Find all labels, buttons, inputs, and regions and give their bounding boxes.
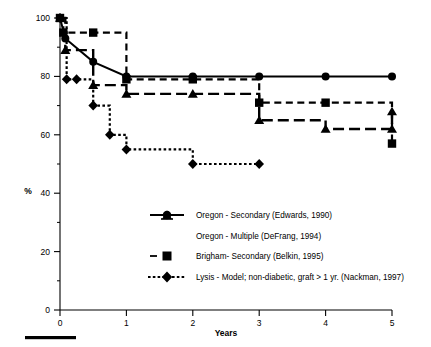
legend-label: Lysis - Model; non-diabetic, graft > 1 y… <box>196 273 404 282</box>
survival-curve-chart: 100 80 60 40 20 0 % 0 1 2 3 4 5 Years <box>0 0 431 347</box>
x-tick-label: 2 <box>190 318 195 328</box>
x-axis-title: Years <box>215 328 238 338</box>
chart-figure: 100 80 60 40 20 0 % 0 1 2 3 4 5 Years <box>0 0 431 347</box>
y-tick-label: 80 <box>41 71 51 81</box>
y-tick-label: 40 <box>41 188 51 198</box>
x-tick-label: 4 <box>323 318 328 328</box>
data-point-marker <box>388 72 396 80</box>
data-point-marker <box>322 72 330 80</box>
y-axis-title: % <box>24 186 32 196</box>
x-tick-label: 5 <box>390 318 395 328</box>
x-tick-label: 1 <box>124 318 129 328</box>
data-point-marker <box>321 98 329 106</box>
legend-label: Oregon - Secondary (Edwards, 1990) <box>196 211 332 220</box>
y-tick-label: 20 <box>41 247 51 257</box>
legend-label: Brigham- Secondary (Belkin, 1995) <box>196 252 324 261</box>
legend-label: Oregon - Multiple (DeFrang, 1994) <box>196 232 321 241</box>
data-point-marker <box>89 28 97 36</box>
data-point-marker <box>189 75 197 83</box>
x-tick-label: 3 <box>257 318 262 328</box>
scale-bar <box>25 336 76 339</box>
data-point-marker <box>255 98 263 106</box>
y-tick-label: 100 <box>36 13 50 23</box>
y-tick-label: 60 <box>41 130 51 140</box>
y-tick-label: 0 <box>45 305 50 315</box>
data-point-marker <box>122 75 130 83</box>
x-tick-label: 0 <box>58 318 63 328</box>
data-point-marker <box>388 139 396 147</box>
